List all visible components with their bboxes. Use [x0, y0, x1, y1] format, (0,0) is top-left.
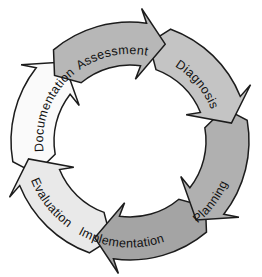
cycle-diagram: AssessmentDiagnosisPlanningImplementatio… [0, 0, 262, 277]
cycle-svg: AssessmentDiagnosisPlanningImplementatio… [0, 0, 262, 277]
